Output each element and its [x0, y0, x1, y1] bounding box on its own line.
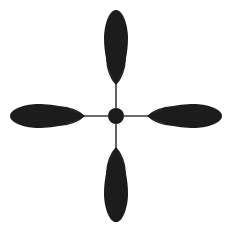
- orbital-diagram-figure: [0, 0, 231, 229]
- nucleus-circle: [108, 108, 124, 124]
- orbital-diagram-canvas: [0, 0, 231, 229]
